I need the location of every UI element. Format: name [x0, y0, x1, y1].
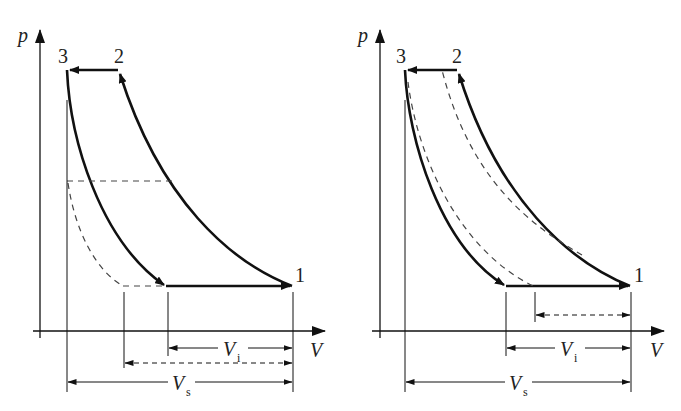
v-axis-label: V: [650, 339, 665, 361]
vs-subscript: s: [186, 385, 191, 399]
vs-label: V: [172, 372, 187, 394]
point-label-1: 1: [295, 264, 305, 286]
point-label-3: 3: [58, 45, 68, 67]
right-pv-diagram: p V V i V s 3 2 1: [356, 24, 665, 399]
vs-subscript: s: [523, 385, 528, 399]
vs-label: V: [509, 372, 524, 394]
point-label-1: 1: [634, 264, 644, 286]
vi-label: V: [560, 338, 575, 360]
point-label-3: 3: [396, 45, 406, 67]
dashed-re-expansion-curve: [68, 183, 123, 286]
vi-label: V: [223, 338, 238, 360]
vi-subscript: i: [574, 351, 578, 365]
compressor-pv-diagrams: p V V i V s 3 2 1 p V: [0, 0, 681, 411]
compression-curve: [459, 74, 630, 286]
point-label-2: 2: [452, 45, 462, 67]
left-pv-diagram: p V V i V s 3 2 1: [16, 24, 325, 399]
p-axis-label: p: [16, 24, 28, 47]
compression-curve: [120, 74, 292, 286]
re-expansion-curve: [405, 70, 504, 285]
p-axis-label: p: [356, 24, 368, 47]
dashed-compression-curve: [442, 70, 582, 255]
v-axis-label: V: [310, 339, 325, 361]
re-expansion-curve: [67, 70, 164, 285]
point-label-2: 2: [114, 45, 124, 67]
